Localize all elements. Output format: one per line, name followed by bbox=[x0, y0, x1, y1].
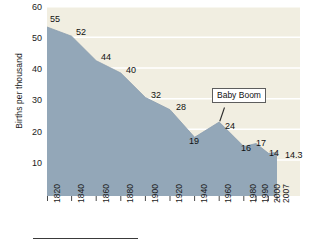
x-tick-label-2007: 2007 bbox=[281, 184, 291, 203]
value-label-1940: 19 bbox=[189, 136, 199, 146]
y-tick-label-10: 10 bbox=[20, 158, 42, 168]
value-label-2007: 14.3 bbox=[285, 150, 303, 160]
x-tick-label-1940: 1940 bbox=[199, 184, 209, 203]
x-tick-label-1980: 1980 bbox=[248, 184, 258, 203]
y-tick-label-20: 20 bbox=[20, 127, 42, 137]
x-tick-label-1860: 1860 bbox=[101, 184, 111, 203]
x-tick-label-1960: 1960 bbox=[223, 184, 233, 203]
value-label-1860: 44 bbox=[101, 52, 111, 62]
y-tick-label-60: 60 bbox=[20, 2, 42, 12]
y-tick-label-50: 50 bbox=[20, 33, 42, 43]
value-label-1820: 55 bbox=[50, 14, 60, 24]
bottom-rule bbox=[33, 238, 138, 239]
x-tick-label-1820: 1820 bbox=[52, 184, 62, 203]
value-label-1920: 28 bbox=[176, 102, 186, 112]
x-tick-label-1880: 1880 bbox=[125, 184, 135, 203]
value-label-1900: 32 bbox=[151, 90, 161, 100]
value-label-1990: 17 bbox=[256, 138, 266, 148]
value-label-1840: 52 bbox=[76, 27, 86, 37]
value-label-1880: 40 bbox=[126, 65, 136, 75]
x-tick-label-1900: 1900 bbox=[150, 184, 160, 203]
x-tick-label-1840: 1840 bbox=[76, 184, 86, 203]
chart-figure: Births per thousand 60 50 40 30 20 10 bbox=[0, 0, 316, 247]
y-tick-label-40: 40 bbox=[20, 64, 42, 74]
value-label-1980: 16 bbox=[241, 143, 251, 153]
value-label-1960: 24 bbox=[225, 121, 235, 131]
x-tick-label-1990: 1990 bbox=[260, 184, 270, 203]
value-label-2000: 14 bbox=[269, 148, 279, 158]
x-tick-label-1920: 1920 bbox=[174, 184, 184, 203]
baby-boom-annotation: Baby Boom bbox=[212, 88, 266, 103]
y-tick-label-30: 30 bbox=[20, 95, 42, 105]
